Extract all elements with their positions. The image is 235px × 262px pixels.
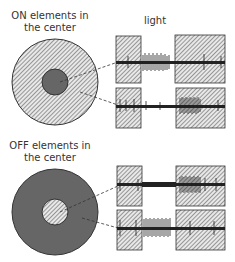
receptive-field-diagram	[0, 0, 235, 262]
off-surround-spike-trace	[117, 210, 225, 250]
on-center-receptive-field	[12, 39, 98, 125]
off-center-spike-trace	[117, 166, 225, 206]
on-center-spike-trace	[116, 35, 225, 83]
off-center-receptive-field	[12, 169, 98, 255]
on-surround-spike-trace	[116, 88, 225, 128]
